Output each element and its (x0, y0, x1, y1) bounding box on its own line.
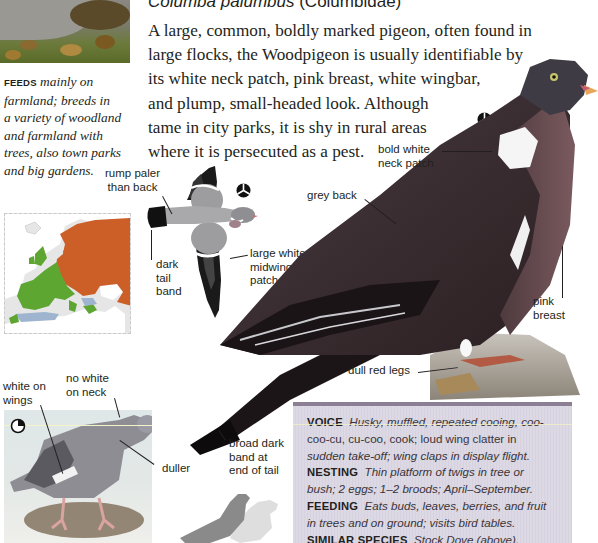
juvenile-symbol-icon (10, 418, 26, 434)
feeds-line: and farmland with (4, 127, 144, 145)
info-box-content: VOICE Husky, muffled, repeated cooing, c… (307, 414, 569, 543)
voice-section: VOICE Husky, muffled, repeated cooing, c… (307, 414, 569, 464)
voice-keyword: VOICE (307, 416, 343, 428)
nesting-text: bush; 2 eggs; 1–2 broods; April–Septembe… (307, 481, 569, 498)
label-line: band at (229, 451, 284, 465)
feeds-line: mainly on (40, 74, 93, 89)
similar-species-keyword: SIMILAR SPECIES (307, 534, 408, 543)
feeds-line: trees, also town parks (4, 144, 144, 162)
feeding-keyword: FEEDING (307, 500, 358, 512)
label-grey-back: grey back (307, 189, 357, 203)
label-white-on-wings: white on wings (3, 380, 46, 407)
label-duller: duller (162, 462, 190, 476)
stock-dove-photo-fragment (0, 0, 130, 63)
label-pink-breast: pink breast (533, 295, 565, 322)
nesting-section: NESTING Thin platform of twigs in tree o… (307, 464, 569, 498)
leader-line (562, 246, 563, 298)
label-dark-tail-band: dark tail band (156, 258, 182, 299)
voice-text: sudden take-off; wing claps in display f… (307, 448, 569, 465)
feeding-section: FEEDING Eats buds, leaves, berries, and … (307, 498, 569, 532)
nesting-text: Thin platform of twigs in tree or (365, 465, 524, 478)
label-line: dark (156, 258, 182, 272)
label-line: end of tail (229, 464, 284, 478)
intro-line: A large, common, boldly marked pigeon, o… (148, 19, 558, 43)
label-line: no white (66, 372, 109, 386)
label-line: neck patch (378, 157, 434, 171)
similar-species-section: SIMILAR SPECIES Stock Dove (above). (307, 532, 569, 543)
voice-text: coo-cu, cu-coo, cook; loud wing clatter … (307, 431, 569, 448)
divider-line (4, 425, 152, 426)
label-neck-patch: bold white neck patch (378, 143, 434, 170)
size-comparison-silhouettes (180, 490, 290, 543)
feeds-text: FEEDS mainly on farmland; breeds in a va… (4, 73, 144, 180)
label-line: tail (156, 272, 182, 286)
label-line: rump paler (105, 167, 160, 181)
adult-woodpigeon-illustration (180, 55, 598, 455)
label-line: white on (3, 380, 46, 394)
label-rump-paler: rump paler than back (105, 167, 160, 194)
label-tail-end-band: broad dark band at end of tail (229, 437, 284, 478)
label-line: band (156, 285, 182, 299)
feeding-text: Eats buds, leaves, berries, and fruit (365, 499, 547, 512)
juvenile-pigeon-graphic (4, 410, 152, 543)
voice-text-line: coo-cu, cu-coo, cook; loud wing clatter … (307, 432, 516, 445)
label-no-white-on-neck: no white on neck (66, 372, 109, 399)
label-line: bold white (378, 143, 434, 157)
label-dull-red-legs: dull red legs (348, 364, 410, 378)
feeds-line: farmland; breeds in (4, 92, 144, 110)
europe-map-graphic (5, 214, 131, 334)
leader-line (151, 230, 152, 260)
family-name: (Columbidae) (299, 0, 401, 11)
range-map (4, 213, 131, 334)
divider-line (293, 424, 572, 425)
feeding-text: in trees and on ground; visits bird tabl… (307, 515, 569, 532)
leader-line (442, 151, 492, 152)
voice-text: Husky, muffled, repeated cooing, coo- (349, 415, 543, 428)
label-line: than back (105, 181, 160, 195)
juvenile-photo (4, 410, 152, 543)
similar-species-text: Stock Dove (above). (414, 533, 519, 543)
species-title: Columba palumbus (Columbidae) (148, 0, 401, 12)
feeds-line: a variety of woodland (4, 109, 144, 127)
nesting-keyword: NESTING (307, 466, 358, 478)
feeds-keyword: FEEDS (4, 77, 37, 88)
label-line: pink (533, 295, 565, 309)
label-line: broad dark (229, 437, 284, 451)
label-line: breast (533, 309, 565, 323)
latin-name: Columba palumbus (148, 0, 294, 11)
label-line: on neck (66, 386, 109, 400)
